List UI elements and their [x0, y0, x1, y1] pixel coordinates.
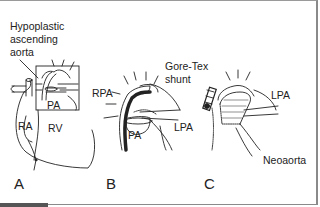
label-a-pa: PA: [47, 99, 60, 111]
label-hypoplastic-line2: ascending: [10, 33, 58, 45]
label-hypoplastic-line1: Hypoplastic: [10, 20, 64, 32]
panel-a-drawing: [11, 60, 95, 170]
panel-c-drawing: [203, 70, 278, 156]
panel-label-a: A: [14, 175, 24, 192]
label-b-pa: PA: [128, 129, 141, 141]
label-c-neoaorta: Neoaorta: [263, 154, 306, 166]
label-b-lpa: LPA: [174, 121, 193, 133]
panel-label-b: B: [106, 175, 116, 192]
label-b-rpa: RPA: [92, 87, 113, 99]
label-a-rv: RV: [48, 122, 62, 134]
label-c-lpa: LPA: [271, 89, 290, 101]
label-goretex-line1: Gore-Tex: [165, 60, 208, 72]
panel-label-c: C: [204, 175, 215, 192]
label-a-ra: RA: [18, 120, 33, 132]
label-hypoplastic-line3: aorta: [10, 46, 34, 58]
label-goretex-line2: shunt: [165, 73, 191, 85]
